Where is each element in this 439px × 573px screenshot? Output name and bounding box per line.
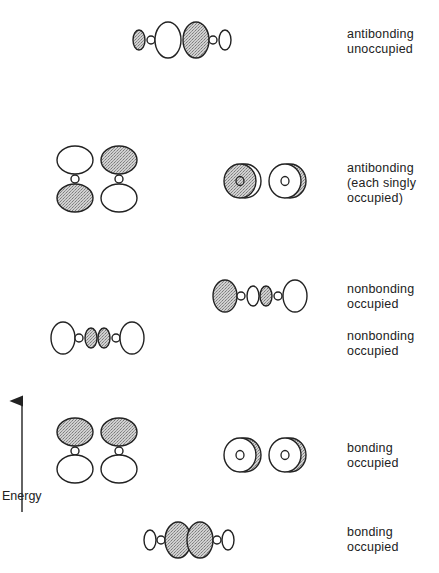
open-lobe [144, 530, 156, 550]
orbital-level-nonbonding-occupied-upper [213, 280, 307, 312]
orbital-pi-endon [269, 438, 306, 472]
orbitals-layer [51, 22, 307, 558]
energy-axis-label: Energy [2, 489, 42, 503]
open-lobe [71, 447, 79, 455]
orbital-pi-vertical [101, 146, 137, 212]
open-lobe [219, 30, 231, 50]
open-lobe [101, 455, 137, 483]
nucleus [236, 451, 244, 460]
shaded-lobe [213, 280, 237, 312]
level-label-nonbonding-occupied-lower: nonbonding occupied [347, 329, 414, 359]
level-label-bonding-occupied-sigma: bonding occupied [347, 525, 399, 555]
orbital-pi-vertical [57, 146, 93, 212]
orbital-level-antibonding-singly-occupied [57, 146, 306, 212]
open-lobe [237, 292, 245, 300]
open-lobe [75, 334, 83, 342]
shaded-lobe [85, 328, 97, 348]
open-lobe [51, 322, 75, 354]
shaded-lobe [133, 30, 145, 50]
orbital-pi-vertical [101, 418, 137, 483]
open-lobe [157, 536, 165, 544]
nucleus [281, 177, 289, 186]
open-lobe [71, 175, 79, 183]
shaded-lobe [57, 418, 93, 446]
orbital-sigma-axial [144, 522, 234, 558]
open-lobe [274, 292, 282, 300]
level-label-bonding-occupied-pi: bonding occupied [347, 441, 399, 471]
open-lobe [283, 280, 307, 312]
level-label-antibonding-unoccupied: antibonding unoccupied [347, 27, 414, 57]
shaded-lobe [101, 418, 137, 446]
shaded-lobe [260, 286, 272, 306]
orbital-sigma-axial [213, 280, 307, 312]
open-lobe [155, 22, 181, 58]
shaded-lobe [187, 522, 213, 558]
orbital-sigma-axial [51, 322, 144, 354]
orbital-pi-endon [224, 164, 261, 198]
open-lobe [101, 184, 137, 212]
shaded-lobe [183, 22, 209, 58]
orbital-pi-vertical [57, 418, 93, 483]
nucleus [236, 177, 244, 186]
orbital-level-nonbonding-occupied-lower [51, 322, 144, 354]
open-lobe [57, 146, 93, 174]
open-lobe [57, 455, 93, 483]
shaded-lobe [98, 328, 110, 348]
shaded-lobe [57, 184, 93, 212]
open-lobe [247, 286, 259, 306]
nucleus [281, 451, 289, 460]
open-lobe [147, 36, 155, 44]
open-lobe [115, 175, 123, 183]
orbital-pi-endon [224, 438, 261, 472]
open-lobe [209, 36, 217, 44]
orbital-sigma-axial [133, 22, 231, 58]
level-label-nonbonding-occupied-upper: nonbonding occupied [347, 282, 414, 312]
orbital-level-antibonding-unoccupied [133, 22, 231, 58]
open-lobe [112, 334, 120, 342]
open-lobe [120, 322, 144, 354]
orbital-level-bonding-occupied-pi [57, 418, 306, 483]
open-lobe [213, 536, 221, 544]
orbital-pi-endon [269, 164, 306, 198]
level-label-antibonding-singly-occupied: antibonding (each singly occupied) [347, 161, 416, 206]
open-lobe [222, 530, 234, 550]
open-lobe [115, 447, 123, 455]
orbital-level-bonding-occupied-sigma [144, 522, 234, 558]
shaded-lobe [101, 146, 137, 174]
